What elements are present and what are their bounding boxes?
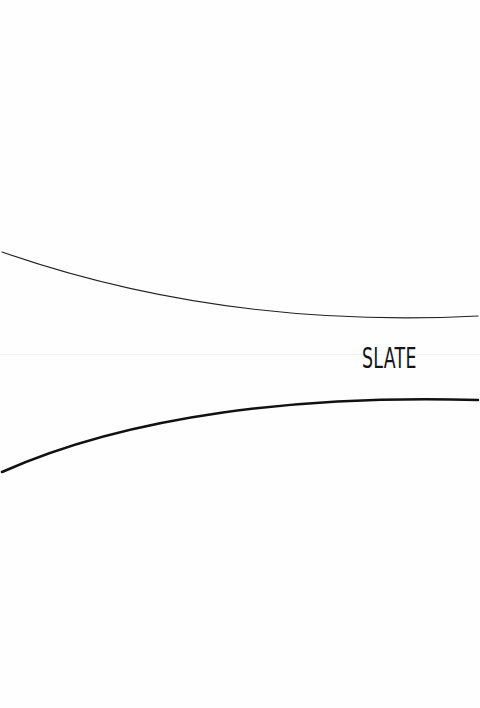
brand-wordmark: SLATE <box>362 344 417 374</box>
cover-page: SLATE <box>0 0 480 708</box>
bottom-curve <box>2 399 478 472</box>
top-curve <box>2 252 478 318</box>
